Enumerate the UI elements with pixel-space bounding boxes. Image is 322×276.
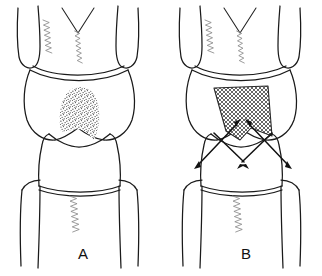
left-lobe-a <box>17 6 40 68</box>
left-lobe-b <box>179 6 202 68</box>
lower-segment-a <box>39 190 120 196</box>
second-sternite-a <box>39 134 121 192</box>
right-lobe-b <box>278 6 301 68</box>
median-zigzag-a <box>75 31 83 63</box>
tergal-border-a <box>30 66 128 81</box>
upper-left-zigzag-a <box>43 20 52 53</box>
right-lobe-a <box>116 6 139 68</box>
figure-plate: A <box>0 0 322 276</box>
illustration-canvas: A <box>0 0 322 276</box>
median-v-suture-b <box>224 8 256 33</box>
panel-b-label: B <box>241 245 251 262</box>
upper-left-zigzag-b <box>205 20 214 53</box>
panel-a-label: A <box>78 245 88 262</box>
lower-zigzag-b <box>233 196 243 232</box>
second-sternite-b <box>201 134 283 192</box>
crosshatched-region-b <box>214 86 272 140</box>
tergal-border-b <box>192 66 290 81</box>
median-v-suture-a <box>62 8 94 33</box>
stippled-region-a <box>52 80 108 146</box>
lower-zigzag-a <box>70 196 80 232</box>
median-zigzag-b <box>237 31 245 63</box>
lower-segment-b <box>201 190 282 196</box>
